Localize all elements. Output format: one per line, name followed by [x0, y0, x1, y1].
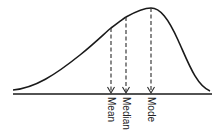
mode-marker	[148, 8, 155, 93]
median-marker	[123, 17, 130, 93]
mean-marker	[108, 28, 115, 93]
mean-label: Mean	[106, 97, 116, 122]
median-label: Median	[121, 97, 131, 130]
mode-label: Mode	[146, 97, 156, 122]
